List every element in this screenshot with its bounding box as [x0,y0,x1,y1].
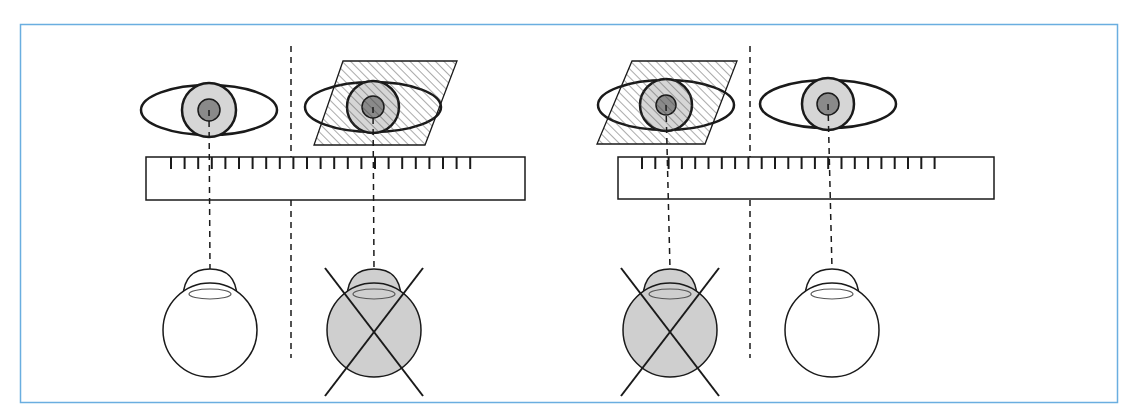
eyeball-occluded [621,268,719,396]
ruler [618,157,994,199]
diagram-stage: Eye alignment / cover test diagram: two … [0,0,1136,418]
left-panel [141,46,525,396]
ruler [146,157,525,200]
eyeball [785,269,879,377]
eye-cover-test-diagram [0,0,1136,418]
right-panel [597,46,994,396]
line-of-sight [373,107,374,269]
eyeball [163,269,257,377]
eyeball-occluded [325,268,423,396]
occluder-filter [314,61,457,145]
line-of-sight [209,110,210,269]
